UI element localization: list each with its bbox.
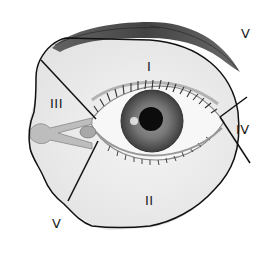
region-label-V-top: V	[241, 27, 250, 40]
region-label-II: II	[145, 194, 154, 207]
region-label-I: I	[147, 60, 151, 73]
iris-highlight	[130, 117, 138, 125]
pupil	[139, 107, 163, 131]
eye-region-diagram: I II III IV V V	[0, 0, 272, 260]
region-label-V-bottom: V	[52, 217, 61, 230]
region-label-IV: IV	[236, 123, 250, 136]
region-label-III: III	[50, 97, 63, 110]
